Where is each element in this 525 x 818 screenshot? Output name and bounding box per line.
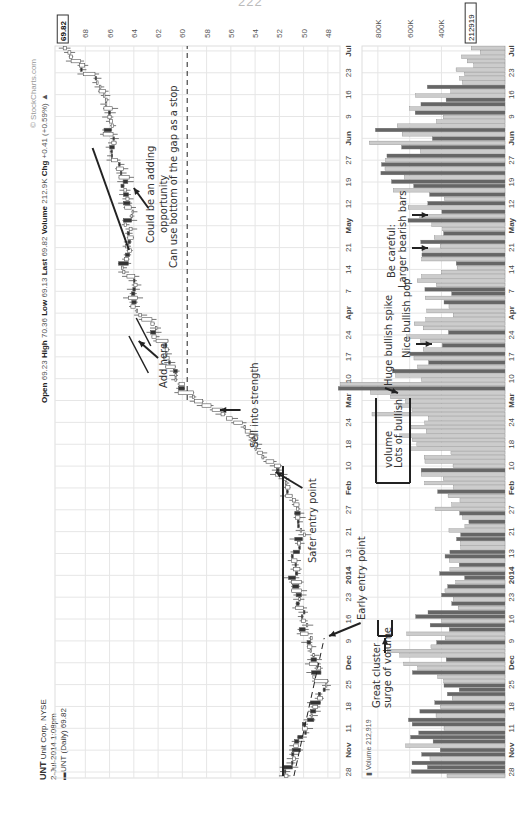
svg-text:9: 9 (507, 638, 516, 643)
svg-text:600K: 600K (406, 19, 415, 38)
price-tick: 48 (324, 29, 333, 38)
svg-text:12: 12 (344, 199, 353, 208)
svg-text:14: 14 (344, 264, 353, 273)
svg-text:Jun: Jun (344, 131, 353, 145)
svg-text:28: 28 (344, 767, 353, 776)
annotation-huge-spike: Huge bullish spike (383, 295, 394, 386)
annotation-lots-bullish-1: Lots of bullish (393, 399, 404, 468)
annotations: Early entry pointSafer entry pointSell i… (93, 46, 432, 776)
svg-text:13: 13 (507, 548, 516, 557)
chart-svg: 686664626058565452504869.82 800K600K400K… (0, 0, 525, 818)
svg-text:212919: 212919 (467, 14, 476, 41)
annotation-early-entry: Early entry point (356, 536, 367, 620)
svg-text:Feb: Feb (344, 481, 353, 495)
svg-text:27: 27 (507, 155, 516, 164)
svg-text:16: 16 (344, 90, 353, 99)
svg-text:27: 27 (507, 505, 516, 514)
svg-text:9: 9 (344, 638, 353, 643)
svg-text:7: 7 (507, 289, 516, 294)
svg-text:21: 21 (344, 243, 353, 252)
svg-text:10: 10 (344, 461, 353, 470)
price-tick: 66 (106, 29, 115, 38)
svg-text:27: 27 (344, 505, 353, 514)
svg-text:11: 11 (507, 724, 516, 733)
svg-text:16: 16 (344, 614, 353, 623)
annotation-great-cluster-2: surge of volume (382, 627, 393, 708)
svg-text:24: 24 (507, 330, 516, 339)
svg-text:23: 23 (344, 592, 353, 601)
svg-text:14: 14 (507, 264, 516, 273)
svg-text:24: 24 (344, 330, 353, 339)
svg-text:May: May (507, 217, 516, 233)
svg-text:Feb: Feb (507, 481, 516, 495)
annotation-great-cluster-1: Great cluster (371, 642, 382, 708)
svg-text:21: 21 (507, 527, 516, 536)
svg-text:21: 21 (507, 243, 516, 252)
price-tick: 50 (300, 29, 309, 38)
price-tick: 68 (81, 29, 90, 38)
svg-text:Nov: Nov (344, 742, 353, 758)
svg-text:69.82: 69.82 (59, 20, 68, 41)
chart-page: UNT Unit Corp. NYSE 2-Jul-2014 1:08pm ▬U… (0, 0, 525, 818)
svg-text:25: 25 (507, 680, 516, 689)
svg-text:Mar: Mar (344, 393, 353, 407)
svg-text:17: 17 (344, 352, 353, 361)
annotation-gap-stop: Can use bottom of the gap as a stop (168, 85, 179, 268)
price-grid (55, 46, 340, 778)
svg-text:18: 18 (344, 701, 353, 710)
svg-text:2014: 2014 (344, 566, 353, 584)
svg-text:9: 9 (344, 114, 353, 119)
svg-text:12: 12 (507, 199, 516, 208)
svg-text:23: 23 (344, 68, 353, 77)
svg-text:9: 9 (507, 114, 516, 119)
svg-text:23: 23 (507, 592, 516, 601)
svg-text:10: 10 (507, 374, 516, 383)
annotation-add-here: Add here (158, 343, 169, 388)
svg-text:24: 24 (344, 417, 353, 426)
svg-text:800K: 800K (374, 19, 383, 38)
price-tick: 58 (203, 29, 212, 38)
annotation-careful-1: Be careful: (386, 224, 397, 278)
svg-text:Dec: Dec (507, 655, 516, 670)
svg-text:24: 24 (507, 417, 516, 426)
svg-text:21: 21 (344, 527, 353, 536)
svg-text:Mar: Mar (507, 393, 516, 407)
annotation-nice-pop: Nice bullish pop (401, 278, 412, 358)
annotation-lots-bullish-2: volume (383, 431, 394, 468)
svg-text:Jun: Jun (507, 131, 516, 145)
volume-bars (338, 46, 505, 777)
svg-text:Nov: Nov (507, 742, 516, 758)
svg-text:Apr: Apr (344, 306, 353, 320)
price-axis: 686664626058565452504869.82 (57, 15, 333, 43)
svg-text:Jul: Jul (344, 45, 353, 57)
candlesticks (59, 46, 331, 777)
price-tick: 60 (178, 29, 187, 38)
annotation-sell-strength: Sell into strength (249, 362, 260, 448)
annotation-safer-entry: Safer entry point (307, 478, 318, 563)
svg-text:10: 10 (344, 374, 353, 383)
svg-text:16: 16 (507, 614, 516, 623)
svg-text:13: 13 (344, 548, 353, 557)
svg-text:10: 10 (507, 461, 516, 470)
price-tick: 62 (154, 29, 163, 38)
svg-text:Apr: Apr (507, 306, 516, 320)
svg-text:16: 16 (507, 90, 516, 99)
svg-text:18: 18 (344, 439, 353, 448)
svg-text:May: May (344, 217, 353, 233)
svg-text:19: 19 (344, 177, 353, 186)
price-tick: 54 (251, 29, 260, 38)
price-tick: 52 (275, 29, 284, 38)
annotation-adding-2: opportunity (158, 175, 169, 233)
annotation-adding-1: Could be an adding (145, 146, 156, 243)
svg-text:27: 27 (344, 155, 353, 164)
svg-text:Jul: Jul (507, 45, 516, 57)
svg-text:▮ Volume 212,919: ▮ Volume 212,919 (365, 719, 372, 776)
price-tick: 56 (227, 29, 236, 38)
svg-text:28: 28 (507, 767, 516, 776)
svg-text:18: 18 (507, 701, 516, 710)
svg-text:18: 18 (507, 439, 516, 448)
svg-text:19: 19 (507, 177, 516, 186)
svg-text:400K: 400K (437, 19, 446, 38)
svg-text:11: 11 (344, 724, 353, 733)
svg-text:Dec: Dec (344, 655, 353, 670)
